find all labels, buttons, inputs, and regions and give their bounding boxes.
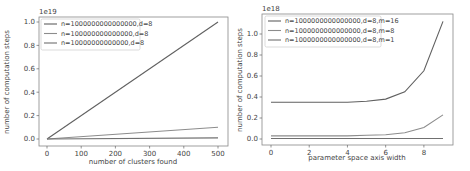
x-tick-label: 0 [269, 149, 273, 157]
y-tick-label: 0.4 [24, 89, 36, 97]
legend-label: n=1000000000000000,d=8 [61, 20, 153, 28]
legend-label: n=1000000000000000,d=8,m=1 [285, 36, 395, 44]
left-offset-label: 1e19 [39, 8, 57, 16]
left-y-axis-label: number of computation steps [3, 30, 11, 134]
x-tick-label: 200 [109, 150, 122, 158]
y-tick-label: 0.6 [24, 65, 36, 73]
left-x-axis-label: number of clusters found [89, 158, 177, 166]
x-tick-label: 300 [143, 150, 156, 158]
legend-label: n=10000000000000,d=8 [61, 39, 144, 47]
y-tick-label: 0.4 [247, 93, 259, 101]
x-tick-label: 500 [211, 150, 224, 158]
x-tick-label: 8 [422, 149, 426, 157]
y-tick-label: 0.0 [24, 135, 35, 143]
left-legend: n=1000000000000000,d=8n=100000000000000,… [41, 19, 153, 50]
right-x-axis-label: parameter space axis width [308, 154, 405, 162]
chart-canvas: 1e19 0.00.20.40.60.81.0 0100200300400500… [0, 0, 470, 171]
y-tick-label: 1.0 [247, 30, 258, 38]
legend-label: n=1000000000000000,d=8,m=16 [285, 17, 399, 25]
right-offset-label: 1e18 [262, 5, 280, 13]
x-tick-label: 100 [75, 150, 88, 158]
left-x-ticks: 0100200300400500 [45, 146, 225, 158]
y-tick-label: 1.0 [24, 18, 35, 26]
right-y-axis-label: number of computation steps [236, 28, 244, 132]
legend-label: n=1000000000000000,d=8,m=8 [285, 27, 395, 35]
legend-label: n=100000000000000,d=8 [61, 30, 148, 38]
left-y-ticks: 0.00.20.40.60.81.0 [24, 18, 39, 143]
series-line-1 [271, 115, 443, 136]
y-tick-label: 0.2 [247, 114, 258, 122]
y-tick-label: 0.0 [247, 135, 258, 143]
right-y-ticks: 0.00.20.40.60.81.0 [247, 30, 262, 143]
y-tick-label: 0.2 [24, 112, 35, 120]
left-chart: 1e19 0.00.20.40.60.81.0 0100200300400500… [3, 8, 228, 166]
y-tick-label: 0.6 [247, 72, 259, 80]
right-legend: n=1000000000000000,d=8,m=16n=10000000000… [265, 16, 399, 47]
x-tick-label: 400 [177, 150, 190, 158]
x-tick-label: 0 [45, 150, 49, 158]
y-tick-label: 0.8 [247, 51, 258, 59]
right-chart: 1e18 0.00.20.40.60.81.0 02468 parameter … [236, 5, 453, 162]
series-line-1 [47, 127, 218, 139]
y-tick-label: 0.8 [24, 42, 35, 50]
series-line-2 [47, 138, 218, 139]
